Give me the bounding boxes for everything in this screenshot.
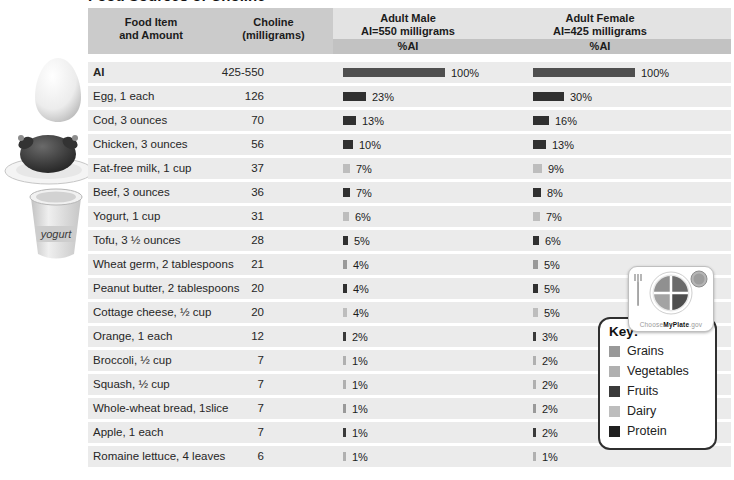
- female-bar: [533, 332, 536, 341]
- female-bar: [533, 452, 536, 461]
- figure-title: Food Sources of Choline: [88, 0, 266, 4]
- female-bar-cell: 8%: [533, 182, 563, 203]
- female-percent-value: 5%: [544, 283, 560, 295]
- table-row: Yogurt, 1 cup 31 6% 7%: [88, 206, 731, 230]
- logo-myplate: MyPlate: [663, 321, 689, 328]
- choline-value: 12: [196, 326, 264, 347]
- male-percent-value: 1%: [352, 427, 368, 439]
- male-bar: [343, 236, 348, 245]
- male-percent-value: 2%: [352, 331, 368, 343]
- female-percent-ai-label: %AI: [525, 39, 675, 54]
- row-band: [88, 86, 731, 107]
- male-bar-cell: 100%: [343, 62, 479, 83]
- choline-value: 425-550: [196, 62, 264, 83]
- female-bar: [533, 356, 536, 365]
- female-bar: [533, 260, 538, 269]
- male-percent-ai-label: %AI: [333, 39, 483, 54]
- choline-value: 7: [196, 374, 264, 395]
- female-bar: [533, 164, 542, 173]
- key-item-label: Dairy: [627, 404, 656, 418]
- choline-value: 56: [196, 134, 264, 155]
- male-bar: [343, 140, 353, 149]
- choline-header-line2: (milligrams): [214, 29, 333, 42]
- percent-ai-subheader: %AI %AI: [333, 39, 731, 54]
- male-percent-value: 6%: [355, 211, 371, 223]
- choosemyplate-gov-text: ChooseMyPlate.gov: [629, 321, 713, 328]
- female-percent-value: 2%: [542, 355, 558, 367]
- male-bar-cell: 4%: [343, 254, 369, 275]
- male-bar: [343, 404, 346, 413]
- female-percent-value: 1%: [542, 451, 558, 463]
- choline-value: 21: [196, 254, 264, 275]
- male-bar: [343, 212, 349, 221]
- female-bar-cell: 30%: [533, 86, 592, 107]
- key-color-swatch: [609, 406, 620, 417]
- male-bar-cell: 4%: [343, 278, 369, 299]
- male-bar-cell: 7%: [343, 158, 372, 179]
- table-header: Food Item and Amount Choline (milligrams…: [88, 8, 731, 54]
- female-bar: [533, 92, 564, 101]
- female-bar-cell: 5%: [533, 278, 560, 299]
- key-item-label: Vegetables: [627, 364, 689, 378]
- female-bar: [533, 68, 635, 77]
- food-name-label: Yogurt, 1 cup: [93, 206, 160, 227]
- key-items: Grains Vegetables Fruits Dairy Protein: [609, 341, 715, 441]
- row-band: [88, 110, 731, 131]
- female-bar: [533, 284, 538, 293]
- female-bar-cell: 100%: [533, 62, 669, 83]
- female-bar: [533, 140, 546, 149]
- key-color-swatch: [609, 386, 620, 397]
- male-bar: [343, 92, 366, 101]
- food-group-key: Key: Grains Vegetables Fruits Dairy Prot…: [598, 317, 717, 450]
- female-percent-value: 30%: [570, 91, 592, 103]
- choline-value: 37: [196, 158, 264, 179]
- food-header-line2: and Amount: [88, 29, 214, 42]
- male-percent-value: 1%: [352, 379, 368, 391]
- logo-choose: Choose: [640, 321, 664, 328]
- adult-female-column-header: Adult Female AI=425 milligrams: [525, 12, 675, 38]
- choline-value: 31: [196, 206, 264, 227]
- key-color-swatch: [609, 346, 620, 357]
- male-percent-value: 5%: [354, 235, 370, 247]
- male-bar-cell: 23%: [343, 86, 394, 107]
- food-name-label: AI: [93, 62, 105, 83]
- food-name-label: Squash, ½ cup: [93, 374, 170, 395]
- choline-value: 20: [196, 278, 264, 299]
- male-bar: [343, 380, 346, 389]
- male-bar: [343, 188, 350, 197]
- choline-value: 7: [196, 422, 264, 443]
- table-row: Tofu, 3 ½ ounces 28 5% 6%: [88, 230, 731, 254]
- female-bar-cell: 6%: [533, 230, 561, 251]
- female-percent-value: 2%: [542, 379, 558, 391]
- choosemyplate-logo: ChooseMyPlate.gov: [628, 266, 714, 332]
- male-percent-value: 4%: [353, 307, 369, 319]
- female-bar: [533, 404, 536, 413]
- choline-value: 36: [196, 182, 264, 203]
- female-bar: [533, 236, 539, 245]
- fork-icon: [635, 274, 641, 283]
- male-percent-value: 1%: [352, 451, 368, 463]
- key-item: Fruits: [609, 381, 715, 401]
- table-row: AI 425-550 100% 100%: [88, 62, 731, 86]
- choline-figure: Food Sources of Choline: [0, 0, 734, 480]
- female-percent-value: 5%: [544, 259, 560, 271]
- female-bar-cell: 5%: [533, 254, 560, 275]
- plate-quadrants: [654, 276, 688, 310]
- table-row: Egg, 1 each 126 23% 30%: [88, 86, 731, 110]
- adult-male-column-header: Adult Male AI=550 milligrams: [333, 12, 483, 38]
- male-percent-value: 23%: [372, 91, 394, 103]
- choline-value: 70: [196, 110, 264, 131]
- male-bar-cell: 4%: [343, 302, 369, 323]
- female-percent-value: 5%: [544, 307, 560, 319]
- choline-value: 7: [196, 398, 264, 419]
- female-bar: [533, 428, 536, 437]
- choline-value: 28: [196, 230, 264, 251]
- key-color-swatch: [609, 426, 620, 437]
- row-band: [88, 182, 731, 203]
- male-bar: [343, 164, 350, 173]
- female-bar-cell: 2%: [533, 350, 558, 371]
- female-percent-value: 13%: [552, 139, 574, 151]
- key-item: Vegetables: [609, 361, 715, 381]
- choline-value: 7: [196, 350, 264, 371]
- key-item-label: Protein: [627, 424, 667, 438]
